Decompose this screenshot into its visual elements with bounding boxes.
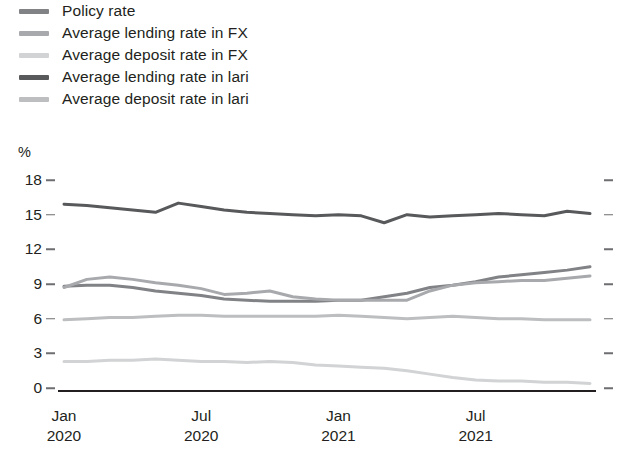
series-line	[64, 203, 590, 223]
legend-swatch-deposit_fx	[19, 53, 49, 58]
series-line	[64, 315, 590, 320]
legend-item-lending_fx[interactable]: Average lending rate in FX	[0, 22, 420, 44]
legend-label-deposit_fx: Average deposit rate in FX	[62, 44, 248, 66]
legend-item-lending_lari[interactable]: Average lending rate in lari	[0, 66, 420, 88]
legend-label-lending_lari: Average lending rate in lari	[62, 66, 249, 88]
legend-swatch-deposit_lari	[19, 97, 49, 102]
legend-label-lending_fx: Average lending rate in FX	[62, 22, 248, 44]
legend-label-deposit_lari: Average deposit rate in lari	[62, 88, 249, 110]
legend-item-deposit_fx[interactable]: Average deposit rate in FX	[0, 44, 420, 66]
legend-swatch-lending_fx	[19, 31, 49, 36]
chart-legend: Policy rateAverage lending rate in FXAve…	[0, 0, 420, 110]
legend-item-policy_rate[interactable]: Policy rate	[0, 0, 420, 22]
legend-swatch-lending_lari	[19, 75, 49, 80]
series-lines	[0, 140, 631, 456]
legend-item-deposit_lari[interactable]: Average deposit rate in lari	[0, 88, 420, 110]
legend-label-policy_rate: Policy rate	[62, 0, 135, 22]
series-line	[64, 267, 590, 302]
plot-area: % 1815129630 Jan2020Jul2020Jan2021Jul202…	[0, 140, 631, 456]
legend-swatch-policy_rate	[19, 9, 49, 14]
series-line	[64, 359, 590, 383]
chart-root: Policy rateAverage lending rate in FXAve…	[0, 0, 631, 456]
